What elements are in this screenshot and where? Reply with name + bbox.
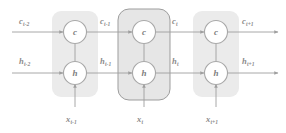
h-label-t: ht — [172, 57, 178, 66]
lstm-unrolled-diagram: c h c h c h ct-2 ct-1 ct ct+1 ht-2 ht-1 … — [0, 0, 286, 133]
c-label-t-minus-1: ct-1 — [100, 17, 110, 26]
h-node-t-minus-1-letter: h — [72, 68, 77, 78]
x-label-t-plus-1: xt+1 — [206, 115, 218, 124]
c-node-t-letter: c — [142, 27, 146, 37]
h-label-t-plus-1: ht+1 — [242, 57, 254, 66]
c-label-t: ct — [172, 17, 177, 26]
c-label-t-plus-1: ct+1 — [242, 17, 253, 26]
h-node-t-plus-1-letter: h — [213, 68, 218, 78]
c-node-t-plus-1-letter: c — [214, 27, 218, 37]
h-node-t-letter: h — [141, 68, 146, 78]
x-label-t: xt — [137, 115, 143, 124]
c-node-t-minus-1-letter: c — [73, 27, 77, 37]
h-label-t-minus-1: ht-1 — [100, 57, 111, 66]
x-label-t-minus-1: xt-1 — [66, 115, 76, 124]
c-label-t-minus-2: ct-2 — [19, 17, 29, 26]
h-label-t-minus-2: ht-2 — [19, 57, 30, 66]
